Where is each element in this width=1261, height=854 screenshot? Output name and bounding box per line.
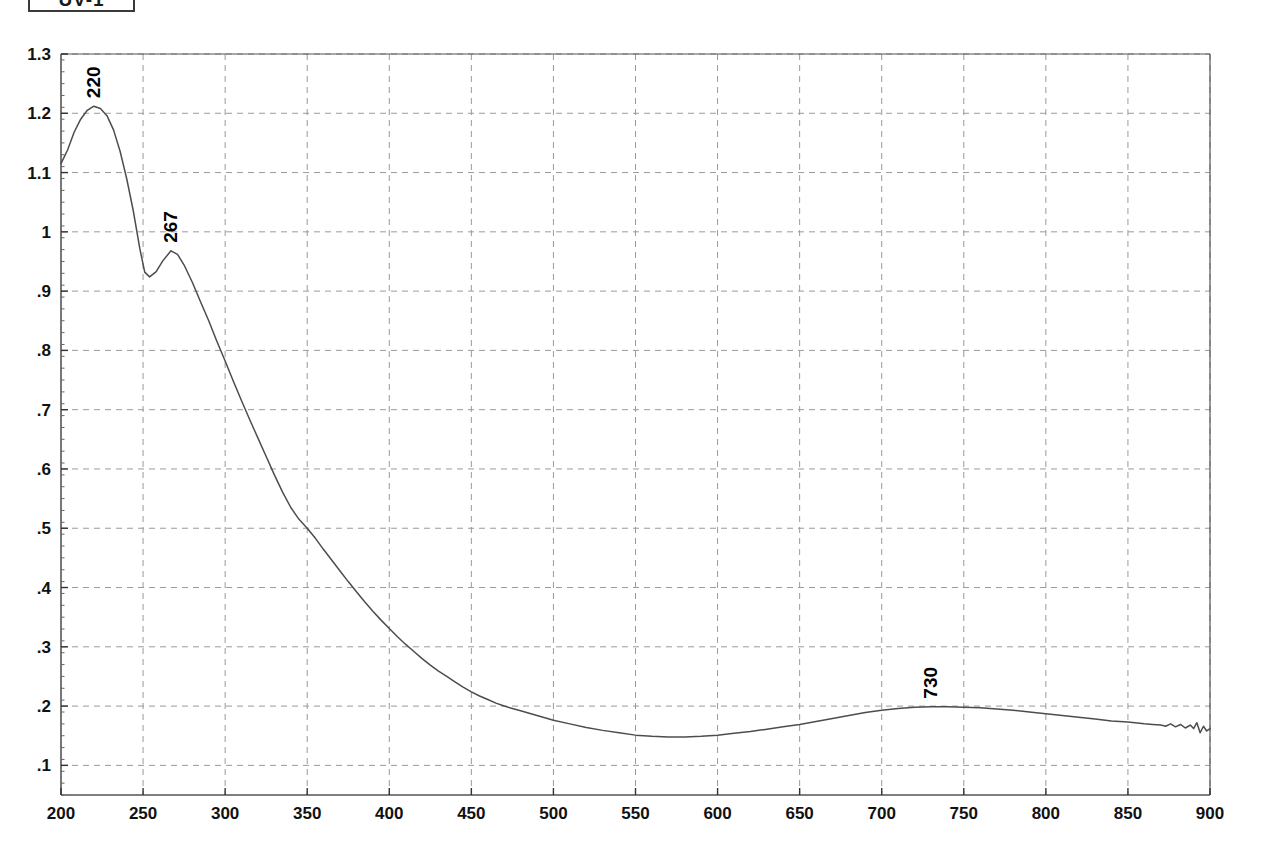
x-tick-label: 650 xyxy=(785,804,813,823)
x-axis-tick-labels: 2002503003504004505005506006507007508008… xyxy=(47,804,1224,823)
y-tick-label: 1.3 xyxy=(27,45,51,64)
x-tick-label: 200 xyxy=(47,804,75,823)
y-tick-label: .5 xyxy=(37,519,51,538)
x-tick-label: 750 xyxy=(950,804,978,823)
peak-annotation-label: 267 xyxy=(160,211,181,243)
y-tick-label: 1.2 xyxy=(27,104,51,123)
uv-vis-spectrum-chart: 2002503003504004505005506006507007508008… xyxy=(0,0,1261,854)
x-tick-label: 450 xyxy=(457,804,485,823)
y-tick-label: .7 xyxy=(37,401,51,420)
y-tick-label: .4 xyxy=(37,579,52,598)
x-tick-label: 300 xyxy=(211,804,239,823)
x-tick-label: 250 xyxy=(129,804,157,823)
peak-annotation-label: 730 xyxy=(920,667,941,699)
x-tick-label: 800 xyxy=(1032,804,1060,823)
peak-annotations: 220267730 xyxy=(83,66,941,698)
y-tick-label: .9 xyxy=(37,282,51,301)
y-tick-label: 1.1 xyxy=(27,164,51,183)
y-tick-label: .3 xyxy=(37,638,51,657)
y-tick-label: .2 xyxy=(37,697,51,716)
y-tick-label: .1 xyxy=(37,756,51,775)
x-tick-label: 400 xyxy=(375,804,403,823)
x-tick-label: 900 xyxy=(1196,804,1224,823)
y-tick-label: .8 xyxy=(37,341,51,360)
peak-annotation-label: 220 xyxy=(83,66,104,98)
x-tick-label: 350 xyxy=(293,804,321,823)
x-tick-label: 550 xyxy=(621,804,649,823)
grid-lines xyxy=(61,54,1210,795)
x-tick-label: 850 xyxy=(1114,804,1142,823)
x-tick-label: 700 xyxy=(868,804,896,823)
y-axis-tick-labels: .1.2.3.4.5.6.7.8.911.11.21.3 xyxy=(27,45,51,775)
spectrum-plot-svg: 2002503003504004505005506006507007508008… xyxy=(0,0,1261,854)
y-tick-label: .6 xyxy=(37,460,51,479)
x-tick-label: 500 xyxy=(539,804,567,823)
x-tick-label: 600 xyxy=(703,804,731,823)
y-tick-label: 1 xyxy=(42,223,51,242)
